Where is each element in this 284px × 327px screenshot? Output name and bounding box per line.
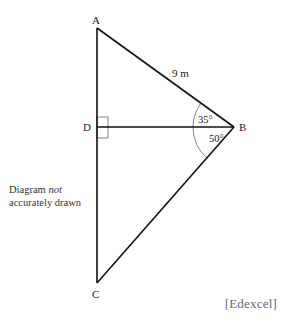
diagram-note: Diagram not: [9, 183, 62, 196]
segment-BC: [97, 127, 234, 283]
point-label-D: D: [83, 121, 91, 133]
diagram-note-line2: accurately drawn: [9, 196, 81, 209]
point-label-B: B: [239, 121, 246, 133]
geometry-diagram: A D B C 9 m 35° 50°: [0, 0, 284, 327]
point-label-C: C: [92, 288, 99, 300]
angle-label-35: 35°: [198, 114, 213, 125]
length-label-AB: 9 m: [172, 67, 189, 79]
angle-label-50: 50°: [209, 133, 224, 144]
note-prefix: Diagram: [9, 184, 48, 195]
point-label-A: A: [92, 14, 100, 26]
segment-AB: [97, 28, 234, 127]
angle-arc-50: [193, 127, 208, 158]
note-emphasis: not: [48, 184, 61, 195]
source-label: [Edexcel]: [225, 296, 277, 312]
